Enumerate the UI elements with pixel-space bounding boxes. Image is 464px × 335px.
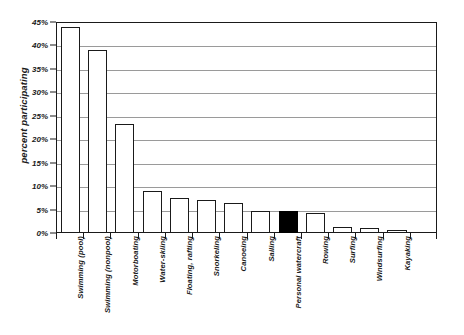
- y-axis-tick-label: 10%: [8, 182, 48, 191]
- y-axis-tick-label: 30%: [8, 88, 48, 97]
- x-axis-tick-label: Floating, rafting: [185, 236, 194, 295]
- y-axis-tick-label: 25%: [8, 111, 48, 120]
- bar-slot: [88, 22, 107, 233]
- bar[interactable]: [306, 213, 325, 233]
- x-axis-tick-label: Canoeing: [239, 236, 248, 271]
- y-axis-tick-label: 35%: [8, 64, 48, 73]
- x-axis-tick-label: Windsurfing: [375, 236, 384, 281]
- bar[interactable]: [279, 211, 298, 233]
- x-axis-labels: Swimming (pool)Swimming (nonpool)Motorbo…: [56, 236, 437, 335]
- y-axis-tick-label: 0%: [8, 229, 48, 238]
- x-axis-tick-label: Rowing: [321, 236, 330, 264]
- y-axis-tick-label: 40%: [8, 41, 48, 50]
- bar[interactable]: [115, 124, 134, 233]
- bar-slot: [251, 22, 270, 233]
- y-axis-tick-label: 5%: [8, 205, 48, 214]
- x-axis-tick-label: Water-skiing: [158, 236, 167, 283]
- bar[interactable]: [61, 27, 80, 233]
- bar-chart: percent participating 0%5%10%15%20%25%30…: [0, 0, 464, 335]
- x-axis-tick-label: Sailing: [267, 236, 276, 262]
- bar-slot: [197, 22, 216, 233]
- x-axis-tick-label: Kayaking: [403, 236, 412, 271]
- bar-slot: [387, 22, 406, 233]
- bar[interactable]: [170, 198, 189, 233]
- bar-slot: [115, 22, 134, 233]
- bar-slot: [279, 22, 298, 233]
- bar-slot: [143, 22, 162, 233]
- y-axis-tick-label: 15%: [8, 158, 48, 167]
- x-axis-tick-label: Snorkeling: [212, 236, 221, 276]
- bar-slot: [306, 22, 325, 233]
- y-axis-tick-label: 45%: [8, 18, 48, 27]
- x-axis-tick-label: Swimming (pool): [76, 236, 85, 299]
- bar[interactable]: [224, 203, 243, 233]
- bar-slot: [333, 22, 352, 233]
- bar[interactable]: [251, 211, 270, 234]
- bar[interactable]: [143, 191, 162, 233]
- x-axis-tick-label: Personal watercraft: [294, 236, 303, 308]
- bar-slot: [170, 22, 189, 233]
- y-axis-tick-label: 20%: [8, 135, 48, 144]
- bar-slot: [61, 22, 80, 233]
- bar[interactable]: [197, 200, 216, 233]
- x-axis-tick-label: Swimming (nonpool): [103, 236, 112, 313]
- bar[interactable]: [88, 50, 107, 233]
- bar-slot: [224, 22, 243, 233]
- bar-slot: [360, 22, 379, 233]
- x-axis-tick-label: Surfing: [348, 236, 357, 263]
- x-axis-tick-label: Motorboating: [131, 236, 140, 286]
- bar-series: [56, 22, 437, 233]
